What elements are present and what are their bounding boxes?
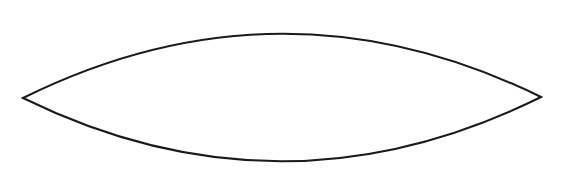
figure-canvas [0, 0, 564, 185]
lens-figure-svg [0, 0, 564, 185]
canvas-background [0, 0, 564, 185]
